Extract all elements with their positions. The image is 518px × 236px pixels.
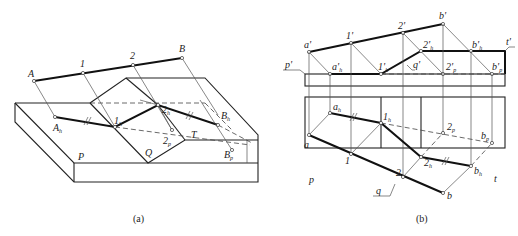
front-view bbox=[283, 22, 515, 86]
caption-a: (a) bbox=[133, 213, 144, 225]
labels-b: a' 1' 2' b' p' t' q' a'h 1'h 2'h b'h 2'p… bbox=[284, 10, 512, 201]
label-Q: Q bbox=[145, 147, 153, 158]
label-2p: 2p bbox=[447, 121, 455, 133]
label-p: p bbox=[308, 174, 314, 185]
label-2h: 2h bbox=[162, 104, 170, 116]
label-2-prime: 2' bbox=[398, 20, 406, 31]
label-ah-prime: a'h bbox=[332, 61, 342, 73]
label-a: a bbox=[304, 139, 309, 150]
label-bh: bh bbox=[474, 165, 482, 177]
label-2p: 2p bbox=[163, 135, 171, 147]
label-T: T bbox=[191, 129, 198, 140]
label-B: B bbox=[179, 43, 185, 54]
label-1h: 1h bbox=[114, 115, 122, 127]
label-bh-prime: b'h bbox=[472, 39, 482, 51]
caption-b: (b) bbox=[416, 213, 428, 225]
label-2: 2 bbox=[396, 167, 401, 178]
figure-a: A 1 2 B Ah 1h 2h Bh 2p Bp P Q T (a) bbox=[15, 43, 258, 225]
projected-line-a bbox=[53, 100, 252, 152]
line-AB bbox=[32, 56, 218, 130]
label-b: b bbox=[447, 190, 452, 201]
projection-diagram: A 1 2 B Ah 1h 2h Bh 2p Bp P Q T (a) bbox=[0, 0, 518, 236]
label-2h-prime: 2'h bbox=[423, 39, 433, 51]
label-1-prime: 1' bbox=[346, 30, 354, 41]
label-a-prime: a' bbox=[304, 39, 312, 50]
label-q: q bbox=[376, 185, 381, 196]
figure-b: a' 1' 2' b' p' t' q' a'h 1'h 2'h b'h 2'p… bbox=[283, 10, 515, 225]
label-2p-prime: 2'p bbox=[446, 61, 456, 73]
label-t: t bbox=[494, 173, 497, 184]
label-1h: 1h bbox=[383, 111, 391, 123]
label-1h-prime: 1'h bbox=[378, 61, 388, 73]
label-Bh: Bh bbox=[221, 110, 230, 122]
label-q-prime: q' bbox=[413, 59, 421, 70]
label-P: P bbox=[77, 151, 84, 162]
label-1: 1 bbox=[80, 58, 85, 69]
label-p-prime: p' bbox=[284, 59, 293, 70]
label-b-prime: b' bbox=[439, 10, 447, 21]
label-Ah: Ah bbox=[52, 122, 62, 134]
label-t-prime: t' bbox=[506, 36, 512, 47]
label-ah: ah bbox=[333, 101, 341, 113]
label-bp-prime: b'p bbox=[492, 61, 502, 73]
label-2: 2 bbox=[130, 50, 135, 61]
label-1: 1 bbox=[345, 155, 350, 166]
label-bp: bp bbox=[481, 130, 489, 142]
label-A: A bbox=[27, 68, 35, 79]
